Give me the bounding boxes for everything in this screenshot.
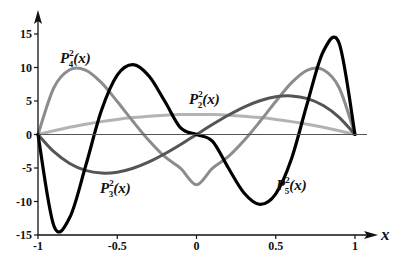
x-tick-label: 0: [194, 239, 200, 253]
curve-label-p3: P23(x): [100, 178, 131, 199]
y-tick-label: -5: [22, 161, 32, 175]
x-tick-label: -1: [33, 239, 43, 253]
curve-p-2-2-x-: [38, 114, 355, 134]
y-tick-label: 10: [20, 61, 32, 75]
y-tick-label: -10: [16, 195, 32, 209]
curve-label-p5: P25(x): [276, 175, 307, 196]
legendre-chart: x-15-10-5051015-1-0.500.51 P22(x)P23(x)P…: [0, 0, 401, 265]
x-tick-label: -0.5: [108, 239, 127, 253]
x-tick-label: 1: [352, 239, 358, 253]
y-tick-label: 15: [20, 27, 32, 41]
x-tick-label: 0.5: [268, 239, 283, 253]
curve-label-p2: P22(x): [189, 89, 220, 110]
y-tick-label: 0: [26, 128, 32, 142]
x-axis-label: x: [380, 225, 390, 244]
y-tick-label: -15: [16, 228, 32, 242]
curve-label-p4: P24(x): [60, 48, 91, 69]
y-tick-label: 5: [26, 94, 32, 108]
